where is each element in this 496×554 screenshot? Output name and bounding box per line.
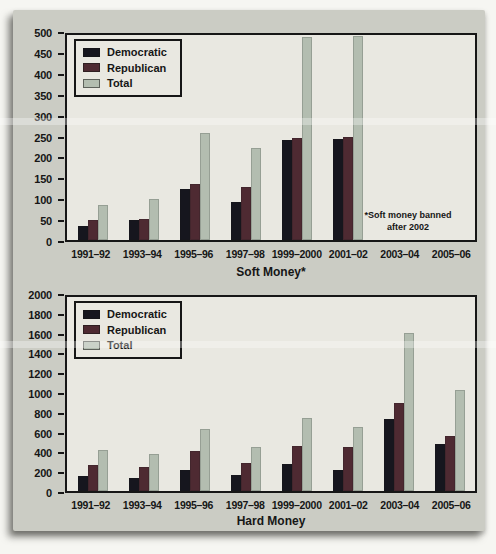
democratic-bar [231, 475, 241, 491]
republican-bar [139, 467, 149, 491]
legend-label: Total [107, 339, 132, 352]
republican-bar [343, 447, 353, 491]
figure-card: 500450400350300250200150100500 Democrati… [13, 10, 485, 531]
democratic-bar [435, 444, 445, 491]
hard-money-x-axis: 1991–921993–941995–961997–981999–2000200… [65, 499, 477, 511]
y-axis-tick-mark [58, 334, 64, 336]
hard-money-chart: 2000180016001400120010008006004002000 De… [13, 10, 485, 531]
x-axis-label: 1995–96 [168, 499, 220, 511]
y-axis-tick-mark [58, 373, 64, 375]
y-axis-tick-mark [58, 393, 64, 395]
republican-bar [445, 436, 455, 491]
x-axis-label: 1997–98 [220, 499, 272, 511]
y-axis-tick-label: 800 [34, 408, 52, 420]
y-axis-tick-label: 400 [34, 447, 52, 459]
hard-money-title: Hard Money [65, 514, 477, 528]
republican-bar [292, 446, 302, 491]
y-axis-tick-label: 1000 [28, 388, 52, 400]
total-bar [455, 390, 465, 491]
y-axis-tick-label: 1600 [28, 329, 52, 341]
x-axis-label: 1993–94 [117, 499, 169, 511]
legend-label: Republican [107, 324, 166, 337]
total-bar [251, 447, 261, 491]
x-axis-label: 1991–92 [65, 499, 117, 511]
legend-item-total: Total [83, 339, 167, 352]
legend-item-republican: Republican [83, 324, 167, 337]
y-axis-tick-mark [58, 413, 64, 415]
legend-label: Democratic [107, 308, 167, 321]
y-axis-tick-mark [58, 472, 64, 474]
y-axis-tick-label: 2000 [28, 289, 52, 301]
republican-bar [241, 463, 251, 491]
y-axis-tick-mark [58, 492, 64, 494]
y-axis-tick-mark [58, 294, 64, 296]
democratic-bar [180, 470, 190, 491]
democratic-bar [129, 478, 139, 491]
x-axis-label: 1999–2000 [271, 499, 323, 511]
total-bar [98, 450, 108, 491]
y-axis-tick-mark [58, 314, 64, 316]
x-axis-label: 2005–06 [426, 499, 478, 511]
republican-bar [394, 403, 404, 491]
x-axis-label: 2001–02 [323, 499, 375, 511]
x-axis-label: 2003–04 [374, 499, 426, 511]
y-axis-tick-label: 200 [34, 467, 52, 479]
republican-bar [190, 451, 200, 491]
y-axis-tick-mark [58, 433, 64, 435]
legend-item-democratic: Democratic [83, 308, 167, 321]
y-axis-tick-label: 1200 [28, 368, 52, 380]
bar-group-2003–04 [373, 297, 424, 491]
page-background: 500450400350300250200150100500 Democrati… [0, 0, 496, 554]
hard-money-y-axis: 2000180016001400120010008006004002000 [13, 295, 65, 493]
bar-group-1999–2000 [271, 297, 322, 491]
legend: DemocraticRepublicanTotal [74, 301, 182, 359]
democratic-bar [282, 464, 292, 491]
y-axis-tick-label: 1400 [28, 348, 52, 360]
legend-swatch [83, 325, 100, 334]
bar-group-2001–02 [322, 297, 373, 491]
total-bar [404, 333, 414, 491]
legend-swatch [83, 310, 100, 319]
democratic-bar [384, 419, 394, 491]
total-bar [302, 418, 312, 491]
y-axis-tick-mark [58, 353, 64, 355]
y-axis-tick-label: 1800 [28, 309, 52, 321]
total-bar [149, 454, 159, 491]
democratic-bar [333, 470, 343, 491]
bar-group-2005–06 [424, 297, 475, 491]
republican-bar [88, 465, 98, 491]
legend-swatch [83, 341, 100, 350]
total-bar [200, 429, 210, 491]
total-bar [353, 427, 363, 491]
democratic-bar [78, 476, 88, 491]
y-axis-tick-label: 600 [34, 428, 52, 440]
y-axis-tick-mark [58, 452, 64, 454]
hard-money-plot-area: DemocraticRepublicanTotal [65, 295, 477, 493]
bar-group-1997–98 [220, 297, 271, 491]
y-axis-tick-label: 0 [46, 487, 52, 499]
